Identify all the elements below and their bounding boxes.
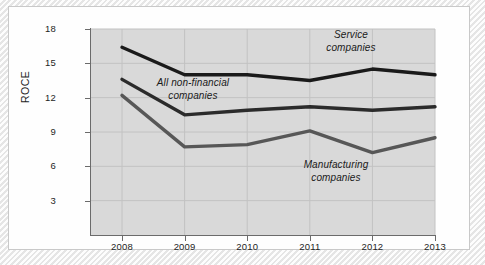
x-tick-label: 2010 (225, 241, 269, 252)
y-tick-label: 3 (30, 195, 56, 206)
x-tick-label: 2011 (288, 241, 332, 252)
annotation-all-non-financial-companies: All non-financial companies (131, 77, 255, 102)
y-tick-mark (85, 63, 90, 64)
y-tick-label: 6 (30, 160, 56, 171)
y-tick-mark (85, 166, 90, 167)
y-tick-mark (85, 132, 90, 133)
x-tick-label: 2008 (100, 241, 144, 252)
y-tick-mark (85, 201, 90, 202)
annotation-manufacturing-companies: Manufacturing companies (275, 159, 397, 184)
x-tick-label: 2009 (163, 241, 207, 252)
plot-area (91, 29, 435, 235)
y-tick-label: 9 (30, 126, 56, 137)
annotation-service-companies: Service companies (297, 29, 405, 54)
y-tick-mark (85, 98, 90, 99)
y-tick-mark (85, 29, 90, 30)
x-axis-line (90, 235, 436, 236)
x-tick-label: 2012 (350, 241, 394, 252)
y-tick-label: 18 (30, 23, 56, 34)
series-lines (91, 29, 435, 235)
figure-page: ROCE 181512963200820092010201120122013 S… (0, 0, 485, 265)
x-tick-label: 2013 (413, 241, 457, 252)
series-line-2 (122, 95, 435, 152)
y-tick-label: 15 (30, 57, 56, 68)
chart-card: ROCE 181512963200820092010201120122013 S… (8, 6, 470, 250)
y-tick-label: 12 (30, 92, 56, 103)
